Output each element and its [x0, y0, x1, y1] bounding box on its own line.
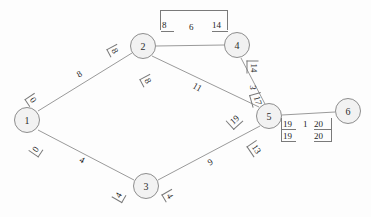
table-right-border: [331, 118, 332, 142]
edge-1-3: [38, 130, 134, 180]
bracket-top-bar: [160, 10, 228, 11]
bracket-left-tick: [160, 10, 161, 30]
node-2-label: 2: [141, 41, 146, 52]
edge-2-4: [156, 45, 224, 46]
node-6-label: 6: [346, 106, 351, 117]
anno-edge45-top-value: 14: [247, 61, 259, 74]
node-4-label: 4: [235, 40, 240, 51]
edge-2-5: [152, 56, 259, 107]
bracket-right-tick: [227, 10, 228, 30]
anno-edge45-mid: 3: [246, 83, 264, 91]
anno-edge45-top: 14: [247, 61, 265, 74]
table-row1-underline-right: [314, 129, 331, 130]
table-r0c2: 20: [314, 119, 323, 129]
edge-3-5: [158, 126, 260, 180]
table-r0c0: 19: [283, 119, 292, 129]
node-5-label: 5: [267, 111, 272, 122]
edge-1-2: [38, 53, 132, 111]
node-3[interactable]: 3: [133, 173, 159, 199]
table-row1-underline-left: [282, 129, 296, 130]
table-left-border: [281, 118, 282, 142]
table-r1c0: 19: [283, 131, 292, 141]
node-1-label: 1: [25, 115, 30, 126]
table-5-6: 19 1 20 19 20: [281, 118, 333, 144]
bracket-2-4: 8 6 14: [160, 10, 240, 40]
bracket-value-left: 8: [162, 20, 167, 30]
node-3-label: 3: [144, 181, 149, 192]
table-r0c1: 1: [303, 119, 308, 129]
edge-5-6: [282, 112, 335, 115]
table-row2-underline-right: [314, 141, 331, 142]
bracket-value-right: 14: [212, 20, 221, 30]
node-2[interactable]: 2: [130, 33, 156, 59]
node-5[interactable]: 5: [256, 103, 282, 129]
table-row2-underline-left: [282, 141, 296, 142]
anno-edge45-mid-value: 3: [247, 83, 258, 91]
node-1[interactable]: 1: [14, 107, 40, 133]
bracket-value-middle: 6: [189, 22, 194, 32]
node-6[interactable]: 6: [335, 98, 361, 124]
graph-diagram: 1 2 3 4 5 6 8 4 11 9 0 0 8 8 4 4 19 13 1: [0, 0, 371, 217]
bracket-right-underline: [212, 31, 228, 32]
table-r1c2: 20: [314, 131, 323, 141]
bracket-left-underline: [161, 31, 174, 32]
